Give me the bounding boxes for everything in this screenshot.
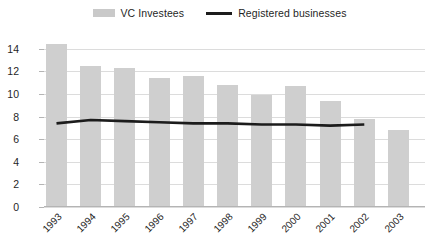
x-tick-label: 1995 (108, 211, 132, 235)
legend-entry-registered-businesses: Registered businesses (206, 7, 346, 19)
legend-entry-vc-investees: VC Investees (93, 7, 185, 19)
plot-area: 02468101214 (44, 42, 425, 207)
line-series (44, 42, 425, 207)
x-tick-label: 1997 (177, 211, 201, 235)
x-tick-label: 2003 (382, 211, 406, 235)
y-tick-label: 14 (0, 43, 19, 55)
y-tick-label: 0 (0, 201, 19, 213)
line-path (57, 120, 365, 126)
x-tick-label: 1996 (142, 211, 166, 235)
y-tick-label: 2 (0, 178, 19, 190)
x-tick-label: 1993 (40, 211, 64, 235)
x-tick-label: 1999 (245, 211, 269, 235)
y-tick-label: 12 (0, 65, 19, 77)
bar-swatch-icon (93, 9, 115, 17)
x-tick-label: 2000 (279, 211, 303, 235)
legend-label: VC Investees (121, 7, 185, 19)
chart-container: VC Investees Registered businesses 02468… (0, 0, 439, 251)
y-tick-label: 8 (0, 111, 19, 123)
x-tick-label: 1994 (74, 211, 98, 235)
line-swatch-icon (206, 12, 232, 15)
x-tick-label: 1998 (211, 211, 235, 235)
y-tick-mark (39, 207, 44, 208)
x-axis-baseline (44, 206, 425, 207)
legend-label: Registered businesses (238, 7, 346, 19)
y-tick-label: 4 (0, 156, 19, 168)
y-tick-label: 10 (0, 88, 19, 100)
gridline (44, 207, 425, 208)
y-tick-label: 6 (0, 133, 19, 145)
x-tick-label: 2002 (348, 211, 372, 235)
x-tick-label: 2001 (313, 211, 337, 235)
chart-legend: VC Investees Registered businesses (0, 4, 439, 22)
